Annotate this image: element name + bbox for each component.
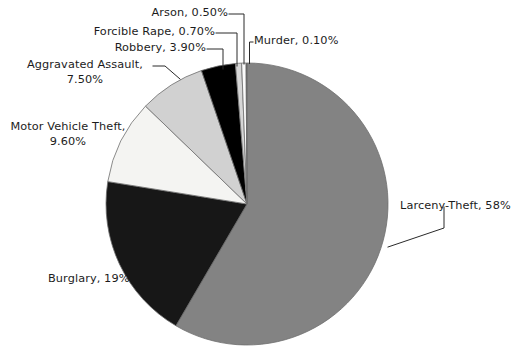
slice-label-murder: Murder, 0.10% bbox=[254, 34, 374, 49]
slice-label-motor-vehicle-theft-line2: 9.60% bbox=[3, 135, 133, 150]
slice-label-forcible-rape: Forcible Rape, 0.70% bbox=[40, 25, 215, 40]
slice-label-robbery-text: Robbery, 3.90% bbox=[115, 41, 206, 54]
slice-label-burglary-text: Burglary, 19% bbox=[48, 272, 130, 285]
leader-line-aggravated-assault bbox=[153, 66, 180, 79]
slice-label-burglary: Burglary, 19% bbox=[48, 272, 178, 287]
slice-label-robbery: Robbery, 3.90% bbox=[40, 41, 206, 56]
slice-label-larceny-theft-text: Larceny-Theft, 58% bbox=[400, 199, 511, 212]
pie-slices-group bbox=[106, 63, 388, 345]
slice-label-motor-vehicle-theft: Motor Vehicle Theft, 9.60% bbox=[3, 120, 133, 149]
slice-label-larceny-theft: Larceny-Theft, 58% bbox=[400, 199, 515, 214]
slice-label-arson-text: Arson, 0.50% bbox=[151, 6, 228, 19]
slice-label-motor-vehicle-theft-line1: Motor Vehicle Theft, bbox=[3, 120, 133, 135]
leader-line-murder bbox=[250, 42, 254, 64]
slice-label-aggravated-assault-line1: Aggravated Assault, bbox=[18, 58, 152, 73]
slice-label-murder-text: Murder, 0.10% bbox=[254, 34, 339, 47]
slice-label-forcible-rape-text: Forcible Rape, 0.70% bbox=[94, 25, 215, 38]
slice-label-aggravated-assault-line2: 7.50% bbox=[18, 73, 152, 88]
slice-label-aggravated-assault: Aggravated Assault, 7.50% bbox=[18, 58, 152, 87]
slice-label-arson: Arson, 0.50% bbox=[60, 6, 228, 21]
